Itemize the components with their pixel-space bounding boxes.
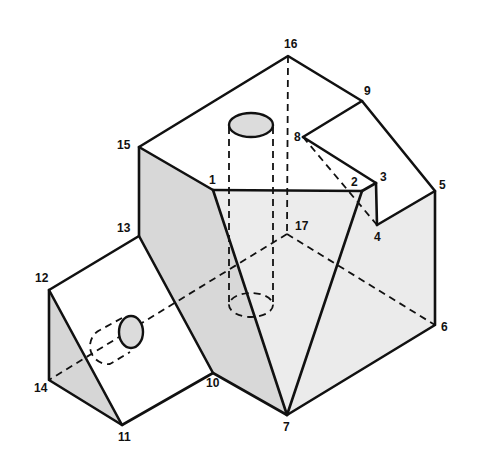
side-hole bbox=[119, 316, 143, 348]
vertex-label-6: 6 bbox=[441, 320, 448, 334]
vertex-label-13: 13 bbox=[117, 221, 131, 235]
vertex-label-14: 14 bbox=[34, 381, 48, 395]
edge-3-4 bbox=[376, 183, 377, 225]
vertex-label-8: 8 bbox=[294, 130, 301, 144]
vertex-label-1: 1 bbox=[209, 173, 216, 187]
vertex-label-5: 5 bbox=[439, 178, 446, 192]
vertex-label-15: 15 bbox=[117, 138, 131, 152]
vertex-label-4: 4 bbox=[374, 230, 381, 244]
vertex-label-7: 7 bbox=[283, 420, 290, 434]
vertex-label-2: 2 bbox=[351, 175, 358, 189]
vertex-label-12: 12 bbox=[35, 271, 49, 285]
vertex-label-17: 17 bbox=[295, 219, 309, 233]
vertex-label-16: 16 bbox=[284, 37, 298, 51]
top-hole bbox=[229, 113, 273, 137]
vertex-label-11: 11 bbox=[118, 430, 131, 444]
vertex-label-3: 3 bbox=[380, 170, 387, 184]
vertex-label-9: 9 bbox=[364, 84, 371, 98]
edge-8-3 bbox=[303, 137, 376, 183]
edge-1-2 bbox=[213, 190, 362, 191]
vertex-label-10: 10 bbox=[206, 376, 220, 390]
edge-9-8 bbox=[303, 101, 362, 137]
isometric-diagram: 1234567891011121314151617 bbox=[0, 0, 483, 452]
